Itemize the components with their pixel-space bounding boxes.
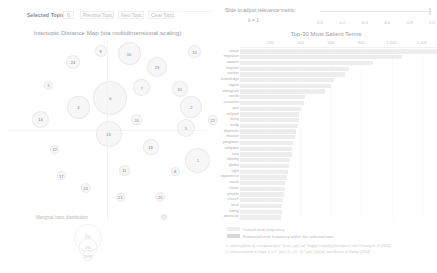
term-label: part bbox=[215, 106, 239, 110]
term-row[interactable]: family bbox=[215, 209, 437, 214]
slider-tick-5: 1.0 bbox=[429, 20, 435, 25]
term-label: right bbox=[215, 169, 239, 173]
toolbar-divider bbox=[178, 11, 212, 20]
x-axis-tick-1000: 1,000 bbox=[386, 40, 396, 45]
term-row[interactable]: experience bbox=[215, 175, 437, 180]
bar-overall-frequency bbox=[240, 129, 296, 133]
term-row[interactable]: programs bbox=[215, 141, 437, 146]
topic-bubble-label-23: 23 bbox=[83, 186, 88, 191]
term-label-wrap: region bbox=[215, 83, 239, 88]
term-row[interactable]: people bbox=[215, 192, 437, 197]
term-row[interactable]: women bbox=[215, 60, 437, 65]
term-row[interactable]: worker bbox=[215, 72, 437, 77]
term-row[interactable]: right bbox=[215, 169, 437, 174]
term-row[interactable]: american bbox=[215, 215, 437, 220]
bar-overall-frequency bbox=[240, 187, 285, 191]
term-row[interactable]: mission bbox=[215, 135, 437, 140]
bar-overall-frequency bbox=[240, 152, 292, 156]
term-row[interactable]: identity bbox=[215, 158, 437, 163]
term-label-wrap: programs bbox=[215, 141, 239, 146]
next-topic-button[interactable]: Next Topic bbox=[118, 11, 144, 19]
term-label-wrap: experience bbox=[215, 175, 239, 180]
term-label: states bbox=[215, 186, 239, 190]
term-row[interactable]: part bbox=[215, 106, 437, 111]
intertopic-distance-map[interactable]: 1516924191037642142022513181211181723212… bbox=[0, 38, 215, 223]
legend-sample-circle bbox=[161, 214, 167, 220]
bar-overall-frequency bbox=[240, 95, 305, 99]
term-label-wrap: living bbox=[215, 118, 239, 123]
term-label-wrap: local bbox=[215, 203, 239, 208]
term-row[interactable]: migrant bbox=[215, 66, 437, 71]
term-row[interactable]: vision bbox=[215, 49, 437, 54]
previous-topic-button[interactable]: Previous Topic bbox=[80, 11, 114, 19]
salient-terms-barchart[interactable]: 2004006008001,0001,200visionmigrationwom… bbox=[215, 40, 437, 220]
topic-bubble-label-21: 21 bbox=[118, 195, 123, 200]
legend-label-estimated: Estimated term frequency within the sele… bbox=[243, 234, 334, 239]
term-row[interactable]: church bbox=[215, 198, 437, 203]
topic-bubble-label-24: 24 bbox=[71, 59, 76, 64]
term-label-wrap: right bbox=[215, 169, 239, 174]
term-label-wrap: new bbox=[215, 152, 239, 157]
term-label-wrap: states bbox=[215, 186, 239, 191]
topic-bubble-label-16: 16 bbox=[127, 51, 132, 56]
relevance-slider-handle[interactable] bbox=[429, 8, 431, 15]
bar-overall-frequency bbox=[240, 215, 281, 219]
size-legend-label-5%: 5% bbox=[85, 245, 91, 250]
term-row[interactable]: global bbox=[215, 163, 437, 168]
term-row[interactable]: knowledge bbox=[215, 78, 437, 83]
term-row[interactable]: study bbox=[215, 123, 437, 128]
term-label: identity bbox=[215, 157, 239, 161]
term-row[interactable]: migration bbox=[215, 55, 437, 60]
term-label: religion bbox=[215, 112, 239, 116]
term-row[interactable]: needs bbox=[215, 95, 437, 100]
topic-bubble-label-12: 12 bbox=[53, 147, 58, 152]
term-row[interactable]: domestic bbox=[215, 129, 437, 134]
bar-overall-frequency bbox=[240, 204, 282, 208]
term-label-wrap: religious bbox=[215, 146, 239, 151]
bar-overall-frequency bbox=[240, 210, 282, 214]
term-label: mission bbox=[215, 134, 239, 138]
term-row[interactable]: social bbox=[215, 181, 437, 186]
term-label-wrap: part bbox=[215, 106, 239, 111]
term-row[interactable]: immigrant bbox=[215, 89, 437, 94]
term-row[interactable]: states bbox=[215, 186, 437, 191]
topic-bubble-label-4: 4 bbox=[77, 105, 79, 110]
size-legend-label-2%: 2% bbox=[85, 234, 91, 239]
term-row[interactable]: countries bbox=[215, 100, 437, 105]
relevance-slider-track[interactable] bbox=[320, 11, 432, 12]
bar-overall-frequency bbox=[240, 72, 345, 76]
x-axis-tick-200: 200 bbox=[267, 40, 274, 45]
term-row[interactable]: living bbox=[215, 118, 437, 123]
term-label-wrap: identity bbox=[215, 158, 239, 163]
term-label: global bbox=[215, 163, 239, 167]
bar-overall-frequency bbox=[240, 147, 292, 151]
bar-overall-frequency bbox=[240, 55, 402, 59]
term-label: new bbox=[215, 152, 239, 156]
term-row[interactable]: new bbox=[215, 152, 437, 157]
term-row[interactable]: religious bbox=[215, 146, 437, 151]
bar-overall-frequency bbox=[240, 141, 293, 145]
term-label-wrap: worker bbox=[215, 72, 239, 77]
slider-tick-4: 0.8 bbox=[407, 20, 413, 25]
term-row[interactable]: local bbox=[215, 203, 437, 208]
term-label: migrant bbox=[215, 66, 239, 70]
term-label-wrap: migration bbox=[215, 55, 239, 60]
bar-overall-frequency bbox=[240, 170, 288, 174]
topic-bubble-label-14: 14 bbox=[38, 117, 43, 122]
term-label-wrap: study bbox=[215, 123, 239, 128]
term-label-wrap: knowledge bbox=[215, 78, 239, 83]
term-row[interactable]: region bbox=[215, 83, 437, 88]
bar-overall-frequency bbox=[240, 112, 299, 116]
slider-tick-3: 0.6 bbox=[384, 20, 390, 25]
topic-bubble-label-1: 1 bbox=[197, 158, 199, 163]
legend-label-overall: Overall term frequency bbox=[243, 227, 284, 232]
selected-topic-input[interactable]: 0 bbox=[63, 11, 74, 19]
term-label-wrap: migrant bbox=[215, 66, 239, 71]
term-label-wrap: domestic bbox=[215, 129, 239, 134]
size-legend-label-10%: 10% bbox=[84, 254, 92, 259]
topic-bubble-label-11: 11 bbox=[122, 168, 126, 173]
clear-topic-button[interactable]: Clear Topic bbox=[148, 11, 174, 19]
topic-bubble-label-9: 9 bbox=[99, 48, 101, 53]
term-row[interactable]: religion bbox=[215, 112, 437, 117]
term-label: living bbox=[215, 117, 239, 121]
